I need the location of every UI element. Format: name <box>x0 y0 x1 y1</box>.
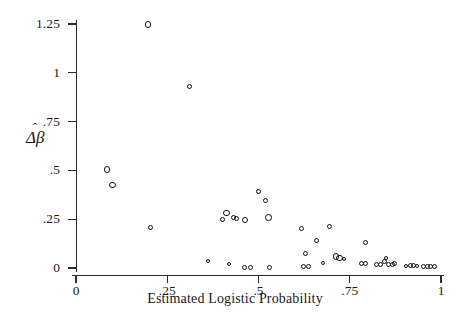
data-point <box>392 261 397 266</box>
x-axis-tick <box>167 275 168 283</box>
y-axis-tick <box>68 267 76 268</box>
y-axis-tick-label: .5 <box>14 163 60 177</box>
data-point <box>242 265 247 270</box>
x-axis-tick <box>349 275 350 283</box>
x-axis-title: Estimated Logistic Probability <box>0 291 470 307</box>
data-point <box>242 217 249 224</box>
data-point <box>299 226 304 231</box>
x-axis-tick <box>440 275 441 283</box>
data-point <box>227 262 231 266</box>
y-axis-tick-label: 0 <box>14 261 60 275</box>
data-point <box>321 261 325 265</box>
data-point <box>109 182 116 189</box>
x-axis-tick <box>258 275 259 283</box>
data-point <box>363 240 368 245</box>
data-point <box>314 238 319 243</box>
data-point <box>267 265 272 270</box>
data-point <box>206 259 210 263</box>
data-point <box>104 166 111 173</box>
data-point <box>384 256 388 260</box>
beta-hat-accent: ˆ <box>33 121 37 134</box>
y-axis-tick <box>68 23 76 24</box>
x-axis-tick <box>75 275 76 283</box>
y-axis-tick-label: .25 <box>14 212 60 226</box>
data-point <box>342 257 346 261</box>
data-point <box>303 251 308 256</box>
y-axis-line <box>76 20 77 272</box>
scatter-plot: 0.25.5.7511.250.25.5.751 ˆΔβ Estimated L… <box>0 0 470 318</box>
y-axis-tick <box>68 219 76 220</box>
y-axis-tick-label: 1 <box>14 66 60 80</box>
y-axis-tick <box>68 72 76 73</box>
y-axis-tick-label: 1.25 <box>14 17 60 31</box>
data-point <box>148 225 153 230</box>
data-point <box>301 264 306 269</box>
data-point <box>415 264 419 268</box>
data-point <box>265 214 272 221</box>
data-point <box>220 217 225 222</box>
data-point <box>145 21 152 28</box>
data-point <box>234 216 239 221</box>
data-point <box>187 84 192 89</box>
data-point <box>306 264 311 269</box>
data-point <box>223 210 230 217</box>
data-point <box>363 261 368 266</box>
y-axis-title: ˆΔβ <box>26 128 44 148</box>
y-axis-tick <box>68 121 76 122</box>
data-point <box>327 224 332 229</box>
data-point <box>263 198 268 203</box>
data-point <box>248 265 253 270</box>
data-point <box>256 189 261 194</box>
data-point <box>432 264 437 269</box>
y-axis-tick <box>68 170 76 171</box>
